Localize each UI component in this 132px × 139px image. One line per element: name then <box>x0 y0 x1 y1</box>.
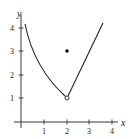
left-curve <box>25 24 66 97</box>
filled-point <box>65 49 69 53</box>
y-axis-label: y <box>16 8 22 19</box>
y-tick-label: 2 <box>10 71 14 80</box>
x-tick-label: 2 <box>65 127 69 136</box>
function-graph: 1 2 3 4 1 2 3 4 x y <box>0 0 132 139</box>
y-tick-label: 4 <box>10 24 14 33</box>
y-tick-label: 1 <box>10 94 14 103</box>
x-tick-label: 1 <box>42 127 46 136</box>
x-axis-label: x <box>120 117 126 128</box>
x-tick-label: 4 <box>110 127 114 136</box>
x-tick-label: 3 <box>87 127 91 136</box>
y-tick-label: 3 <box>10 47 14 56</box>
open-circle-point <box>65 96 69 100</box>
right-line <box>68 23 103 96</box>
